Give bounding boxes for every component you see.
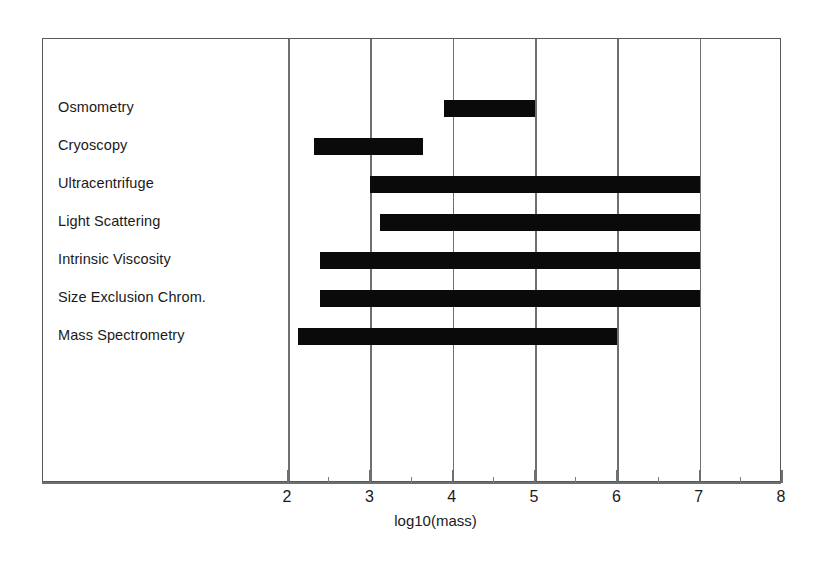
x-axis-title: log10(mass) <box>0 512 823 529</box>
x-minor-tick-4-5 <box>493 477 494 483</box>
category-label-intrinsic-viscosity: Intrinsic Viscosity <box>58 251 171 268</box>
x-tick-5 <box>534 470 536 483</box>
category-label-size-exclusion-chrom: Size Exclusion Chrom. <box>58 289 206 306</box>
category-label-osmometry: Osmometry <box>58 99 134 116</box>
bar-intrinsic-viscosity <box>320 252 700 269</box>
x-tick-8 <box>781 470 783 483</box>
x-minor-tick-3-5 <box>411 477 412 483</box>
bar-light-scattering <box>380 214 699 231</box>
x-tick-2 <box>287 470 289 483</box>
category-label-mass-spectrometry: Mass Spectrometry <box>58 327 185 344</box>
category-label-light-scattering: Light Scattering <box>58 213 160 230</box>
x-tick-4 <box>452 470 454 483</box>
bar-mass-spectrometry <box>298 328 617 345</box>
x-tick-6 <box>616 470 618 483</box>
bar-osmometry <box>444 100 535 117</box>
x-tick-3 <box>369 470 371 483</box>
x-tick-label-4: 4 <box>432 487 472 507</box>
gridline-2 <box>288 39 290 481</box>
x-minor-tick-5-5 <box>575 477 576 483</box>
x-tick-label-2: 2 <box>267 487 307 507</box>
x-minor-tick-2-5 <box>328 477 329 483</box>
gridline-7 <box>700 39 702 481</box>
x-axis-title-text: log10(mass) <box>394 512 477 529</box>
x-tick-label-5: 5 <box>514 487 554 507</box>
bar-size-exclusion-chrom <box>320 290 700 307</box>
x-tick-label-6: 6 <box>596 487 636 507</box>
bar-cryoscopy <box>314 138 424 155</box>
mass-range-chart: OsmometryCryoscopyUltracentrifugeLight S… <box>0 0 823 570</box>
category-label-ultracentrifuge: Ultracentrifuge <box>58 175 154 192</box>
category-label-cryoscopy: Cryoscopy <box>58 137 127 154</box>
x-minor-tick-6-5 <box>658 477 659 483</box>
bar-ultracentrifuge <box>370 176 699 193</box>
x-tick-7 <box>699 470 701 483</box>
x-minor-tick-7-5 <box>740 477 741 483</box>
x-tick-label-3: 3 <box>349 487 389 507</box>
x-tick-label-7: 7 <box>679 487 719 507</box>
x-tick-label-8: 8 <box>761 487 801 507</box>
